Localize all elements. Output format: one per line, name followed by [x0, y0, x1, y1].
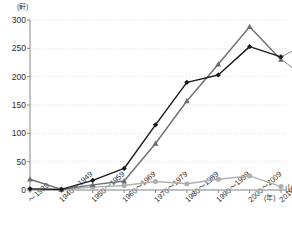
plot-area [0, 0, 292, 237]
data-point-山の手-4 [153, 179, 158, 184]
leader-line-shokunin [283, 61, 292, 70]
data-point-山の手-5 [184, 181, 189, 186]
data-point-山の手-7 [247, 173, 252, 178]
leader-line-shitamachi [283, 50, 292, 56]
data-point-山の手-3 [122, 183, 127, 188]
series-line-下町 [30, 47, 281, 190]
data-point-職人-0 [27, 176, 33, 181]
data-point-下町-2 [90, 178, 95, 183]
data-point-山の手-6 [216, 177, 221, 182]
line-chart: (軒) (年) 050100150200250300 ～19391940～194… [0, 0, 292, 237]
data-point-山の手-8 [278, 184, 283, 189]
series-line-職人 [30, 27, 281, 190]
data-point-職人-7 [247, 24, 253, 29]
